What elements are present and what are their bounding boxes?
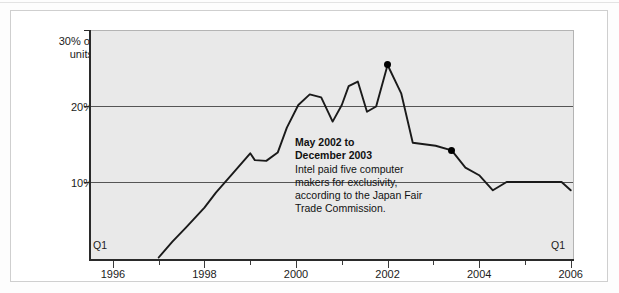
y-axis-top-label: 30% of units [21,35,93,60]
x-tick-minor-1999 [250,261,251,265]
plot-top-border [90,30,574,31]
q1-label-left: Q1 [93,239,107,251]
data-point-marker-2 [448,147,455,154]
y-axis-top-label-line1: 30% of [59,35,93,47]
annotation-headline-line2: December 2003 [295,149,425,162]
x-axis-label-2000: 2000 [273,268,319,280]
chart-annotation: May 2002 to December 2003 Intel paid fiv… [295,136,425,216]
x-tick-minor-2001 [342,261,343,265]
x-axis-label-1996: 1996 [90,268,136,280]
y-axis-label-10: 10% [21,177,93,190]
x-tick-major-1996 [113,261,114,268]
x-tick-minor-1997 [159,261,160,265]
x-tick-major-1998 [204,261,205,268]
top-divider-rule [0,2,619,3]
x-axis-label-1998: 1998 [181,268,227,280]
x-tick-major-2004 [479,261,480,268]
x-axis-label-2006: 2006 [548,268,594,280]
x-tick-major-2000 [296,261,297,268]
gridline-20-percent [90,106,573,107]
chart-figure: 30% of units 20% 10% Q1 Q1 1996199820002… [0,0,619,293]
x-tick-minor-2003 [433,261,434,265]
x-tick-major-2006 [571,261,572,268]
x-tick-major-2002 [388,261,389,268]
x-axis-line [89,259,574,261]
q1-label-right: Q1 [551,239,565,251]
annotation-body: Intel paid five computer makers for excl… [295,163,425,216]
x-axis-label-2004: 2004 [456,268,502,280]
plot-right-border [573,30,574,261]
annotation-headline-line1: May 2002 to [295,136,425,149]
x-tick-minor-2005 [525,261,526,265]
y-axis-label-20: 20% [21,101,93,114]
y-axis-line [89,30,91,261]
x-axis-label-2002: 2002 [365,268,411,280]
